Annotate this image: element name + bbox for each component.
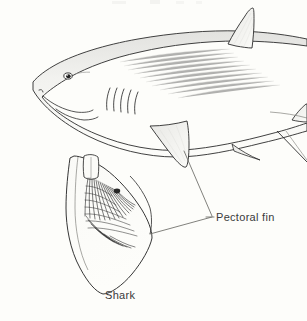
leader-from-body-fin [184,151,212,216]
pectoral-fin-label: Pectoral fin [216,211,275,223]
dorsal-fin [228,8,254,48]
gill-slit-2 [114,88,117,111]
gill-slits [107,88,138,114]
gill-slit-1 [107,88,110,110]
shark-diagram: Pectoral fin Shark [0,0,307,321]
eye [64,73,72,79]
shark-caption: Shark [105,289,135,301]
second-dorsal-fin [292,104,307,122]
dorsal-shading [120,49,280,98]
leader-from-inset-fin [150,217,212,234]
shark-illustration-svg [0,0,307,321]
pectoral-fin-inset [66,155,152,294]
caudal-fin-lower-lobe-inner [286,131,307,160]
scan-artifact-top [112,0,202,4]
shark-body-group [33,8,307,167]
inset-fin-outline [66,156,152,294]
gill-slit-5 [135,92,138,114]
inset-ray-anchor-node [114,189,120,194]
gill-slit-3 [121,89,124,112]
gill-slit-4 [128,90,131,113]
